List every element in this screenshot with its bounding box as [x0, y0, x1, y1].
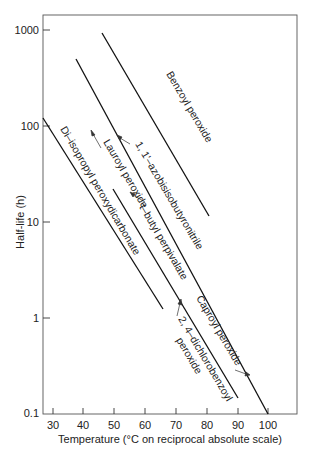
x-tick-70: 70	[170, 419, 182, 431]
line-benzoyl-peroxide	[102, 33, 209, 216]
x-tick-30: 30	[47, 419, 59, 431]
y-tick-100: 100	[21, 120, 39, 132]
x-axis	[53, 408, 268, 414]
arrow-head-icon	[91, 130, 95, 136]
x-tick-80: 80	[201, 419, 213, 431]
x-tick-50: 50	[108, 419, 120, 431]
line-tbutyl-dcbp	[113, 189, 238, 398]
arrow-head-icon	[245, 372, 250, 376]
x-tick-100: 100	[259, 419, 277, 431]
label-benzoyl-peroxide: Benzoyl peroxide	[164, 69, 215, 145]
y-tick-1: 1	[33, 312, 39, 324]
x-tick-90: 90	[232, 419, 244, 431]
y-tick-0.1: 0.1	[24, 407, 39, 419]
x-axis-title: Temperature (°C on reciprocal absolute s…	[58, 433, 282, 445]
x-tick-60: 60	[139, 419, 151, 431]
y-tick-1000: 1000	[15, 24, 39, 36]
y-axis-title: Half-life (h)	[14, 195, 26, 249]
x-tick-40: 40	[77, 419, 89, 431]
y-axis	[43, 30, 50, 318]
y-tick-10: 10	[27, 216, 39, 228]
half-life-chart: 1000 100 10 1 0.1 30 40 50 60 70 80 90 1…	[0, 0, 313, 458]
